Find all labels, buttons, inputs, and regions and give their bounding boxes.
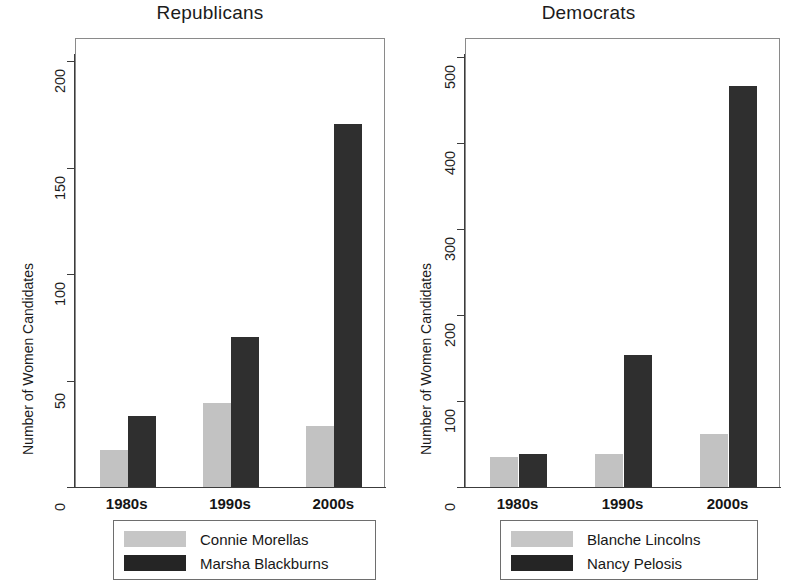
y-tick-label: 0 bbox=[52, 487, 68, 527]
y-tick-label: 400 bbox=[442, 143, 458, 183]
y-tick-label: 0 bbox=[442, 487, 458, 527]
panel-democrats: Democrats Number of Women Candidates 010… bbox=[400, 0, 787, 575]
plot-area-republicans bbox=[75, 38, 385, 488]
y-tick-label: 100 bbox=[52, 274, 68, 314]
bar bbox=[100, 450, 128, 488]
legend-swatch-light-icon bbox=[511, 531, 573, 547]
y-tick-mark bbox=[67, 168, 74, 169]
y-tick-mark bbox=[457, 315, 464, 316]
y-tick-mark bbox=[457, 229, 464, 230]
y-tick-label: 50 bbox=[52, 381, 68, 421]
bar bbox=[128, 416, 156, 488]
x-tick-label: 1990s bbox=[190, 495, 270, 512]
legend-swatch-dark-icon bbox=[511, 555, 573, 571]
x-tick-label: 1990s bbox=[583, 495, 663, 512]
legend-republicans: Connie Morellas Marsha Blackburns bbox=[113, 520, 376, 580]
legend-label: Blanche Lincolns bbox=[587, 531, 700, 548]
x-tick-label: 1980s bbox=[87, 495, 167, 512]
legend-swatch-dark-icon bbox=[124, 555, 186, 571]
x-tick-label: 2000s bbox=[293, 495, 373, 512]
y-tick-label: 100 bbox=[442, 401, 458, 441]
panel-title-democrats: Democrats bbox=[420, 2, 757, 24]
legend-label: Marsha Blackburns bbox=[200, 555, 328, 572]
y-tick-mark bbox=[457, 487, 464, 488]
panel-republicans: Republicans Number of Women Candidates 0… bbox=[0, 0, 400, 575]
plot-area-democrats bbox=[465, 38, 780, 488]
y-tick-label: 300 bbox=[442, 229, 458, 269]
y-tick-mark bbox=[67, 61, 74, 62]
legend-democrats: Blanche Lincolns Nancy Pelosis bbox=[500, 520, 758, 580]
y-tick-label: 500 bbox=[442, 57, 458, 97]
bar bbox=[729, 86, 757, 488]
bar bbox=[334, 124, 362, 488]
bar bbox=[203, 403, 231, 488]
bar bbox=[231, 337, 259, 488]
y-tick-mark bbox=[457, 57, 464, 58]
bar bbox=[490, 457, 518, 488]
x-tick-label: 1980s bbox=[478, 495, 558, 512]
legend-label: Nancy Pelosis bbox=[587, 555, 682, 572]
legend-swatch-light-icon bbox=[124, 531, 186, 547]
y-tick-label: 200 bbox=[52, 61, 68, 101]
x-axis-line-republicans bbox=[74, 487, 386, 488]
y-axis-label-republicans: Number of Women Candidates bbox=[20, 263, 36, 455]
y-tick-label: 150 bbox=[52, 168, 68, 208]
y-tick-mark bbox=[457, 401, 464, 402]
y-tick-label: 200 bbox=[442, 315, 458, 355]
legend-item: Nancy Pelosis bbox=[511, 551, 747, 575]
y-tick-mark bbox=[67, 487, 74, 488]
y-axis-line-democrats bbox=[464, 54, 465, 488]
y-tick-mark bbox=[457, 143, 464, 144]
bar bbox=[306, 426, 334, 488]
bar bbox=[700, 434, 728, 488]
legend-label: Connie Morellas bbox=[200, 531, 308, 548]
panel-title-republicans: Republicans bbox=[30, 2, 390, 24]
bar-group-democrats bbox=[466, 37, 779, 487]
bar bbox=[595, 454, 623, 488]
x-tick-label: 2000s bbox=[688, 495, 768, 512]
legend-item: Connie Morellas bbox=[124, 527, 365, 551]
bar-group-republicans bbox=[76, 37, 384, 487]
y-tick-mark bbox=[67, 274, 74, 275]
legend-item: Blanche Lincolns bbox=[511, 527, 747, 551]
x-axis-line-democrats bbox=[464, 487, 781, 488]
y-axis-label-democrats: Number of Women Candidates bbox=[418, 263, 434, 455]
y-axis-line-republicans bbox=[74, 54, 75, 488]
bar bbox=[624, 355, 652, 488]
legend-item: Marsha Blackburns bbox=[124, 551, 365, 575]
y-tick-mark bbox=[67, 381, 74, 382]
bar bbox=[519, 454, 547, 488]
